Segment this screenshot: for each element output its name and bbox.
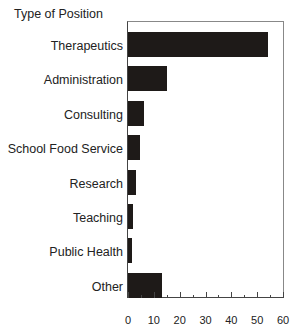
- x-tick-label: 0: [125, 314, 131, 326]
- bar-administration: [128, 66, 167, 91]
- plot-frame: [127, 21, 284, 298]
- category-label: School Food Service: [8, 142, 123, 156]
- bar-school-food-service: [128, 135, 140, 160]
- bar-public-health: [128, 238, 132, 263]
- bar-consulting: [128, 101, 144, 126]
- x-axis-tick: [193, 295, 194, 298]
- x-axis-tick: [141, 295, 142, 298]
- x-tick-label: 60: [277, 314, 289, 326]
- bar-research: [128, 170, 136, 195]
- bar-teaching: [128, 204, 133, 229]
- x-tick-label: 10: [148, 314, 160, 326]
- category-label: Research: [70, 177, 124, 191]
- x-axis-tick: [257, 292, 258, 298]
- category-label: Therapeutics: [51, 39, 123, 53]
- category-label: Public Health: [49, 245, 123, 259]
- category-label: Other: [92, 280, 123, 294]
- x-axis-tick: [167, 295, 168, 298]
- bar-other: [128, 273, 162, 298]
- x-axis-tick: [206, 292, 207, 298]
- category-label: Teaching: [73, 211, 123, 225]
- x-axis-tick: [128, 292, 129, 298]
- bar-therapeutics: [128, 32, 268, 57]
- x-axis-tick: [154, 292, 155, 298]
- x-tick-label: 50: [251, 314, 263, 326]
- category-label: Consulting: [64, 108, 123, 122]
- x-tick-label: 20: [174, 314, 186, 326]
- x-axis-tick: [244, 295, 245, 298]
- y-axis-title: Type of Position: [14, 7, 103, 21]
- x-axis-tick: [180, 292, 181, 298]
- category-label: Administration: [44, 73, 123, 87]
- x-axis-tick: [270, 295, 271, 298]
- x-axis-tick: [218, 295, 219, 298]
- x-axis-tick: [231, 292, 232, 298]
- x-tick-label: 40: [225, 314, 237, 326]
- x-tick-label: 30: [199, 314, 211, 326]
- x-axis-tick: [283, 292, 284, 298]
